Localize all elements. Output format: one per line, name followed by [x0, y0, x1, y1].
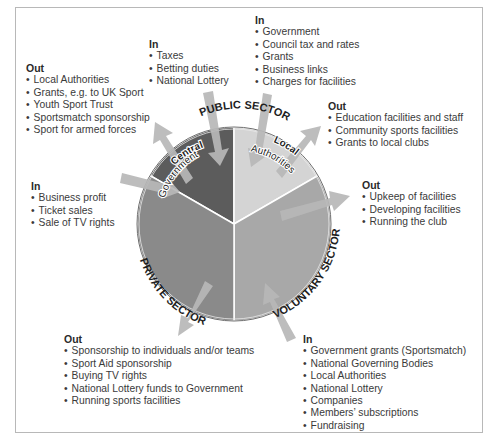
list-item: Education facilities and staff	[328, 112, 463, 124]
voluntary-in-block: In Government grants (Sportsmatch) Natio…	[303, 333, 466, 432]
block-heading: In	[149, 38, 229, 50]
list-item: Sportsmatch sponsorship	[26, 112, 150, 124]
central-government-in-block: In Taxes Betting duties National Lottery	[149, 38, 229, 88]
list-item: Sale of TV rights	[31, 217, 115, 229]
list-item: National Governing Bodies	[303, 358, 466, 370]
voluntary-out-block: Out Upkeep of facilities Developing faci…	[362, 179, 461, 229]
local-authorities-out-block: Out Education facilities and staff Commu…	[328, 100, 463, 150]
block-heading: Out	[362, 179, 461, 191]
list-item: Upkeep of facilities	[362, 191, 461, 203]
list-item: Business links	[255, 64, 359, 76]
central-government-out-block: Out Local Authorities Grants, e.g. to UK…	[26, 62, 150, 136]
block-heading: Out	[328, 100, 463, 112]
list-item: National Lottery funds to Government	[64, 383, 254, 395]
block-heading: Out	[26, 62, 150, 74]
local-authorities-in-block: In Government Council tax and rates Gran…	[255, 14, 359, 88]
list-item: Government	[255, 26, 359, 38]
list-item: Betting duties	[149, 63, 229, 75]
list-item: Youth Sport Trust	[26, 99, 150, 111]
list-item: Local Authorities	[303, 370, 466, 382]
list-item: Sponsorship to individuals and/or teams	[64, 345, 254, 357]
list-item: National Lottery	[149, 75, 229, 87]
list-item: Running sports facilities	[64, 395, 254, 407]
list-item: Developing facilities	[362, 204, 461, 216]
private-out-block: Out Sponsorship to individuals and/or te…	[64, 333, 254, 407]
list-item: Business profit	[31, 192, 115, 204]
list-item: Charges for facilities	[255, 76, 359, 88]
list-item: Local Authorities	[26, 74, 150, 86]
list-item: Grants to local clubs	[328, 137, 463, 149]
list-item: Fundraising	[303, 420, 466, 432]
list-item: National Lottery	[303, 383, 466, 395]
list-item: Council tax and rates	[255, 39, 359, 51]
list-item: Sport Aid sponsorship	[64, 358, 254, 370]
block-heading: In	[31, 180, 115, 192]
list-item: Companies	[303, 395, 466, 407]
block-heading: Out	[64, 333, 254, 345]
list-item: Sport for armed forces	[26, 124, 150, 136]
list-item: Community sports facilities	[328, 125, 463, 137]
list-item: Government grants (Sportsmatch)	[303, 345, 466, 357]
private-in-block: In Business profit Ticket sales Sale of …	[31, 180, 115, 230]
list-item: Taxes	[149, 50, 229, 62]
block-heading: In	[255, 14, 359, 26]
list-item: Grants, e.g. to UK Sport	[26, 87, 150, 99]
block-heading: In	[303, 333, 466, 345]
list-item: Running the club	[362, 216, 461, 228]
list-item: Buying TV rights	[64, 370, 254, 382]
list-item: Ticket sales	[31, 205, 115, 217]
list-item: Members’ subscriptions	[303, 407, 466, 419]
list-item: Grants	[255, 51, 359, 63]
